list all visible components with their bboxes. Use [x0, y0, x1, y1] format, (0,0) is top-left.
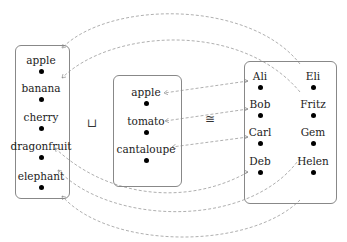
point-dot	[39, 185, 44, 190]
right-item-fritz: Fritz	[273, 98, 347, 118]
point-dot	[258, 170, 263, 175]
point-dot	[39, 97, 44, 102]
point-dot	[311, 113, 316, 118]
item-label: cherry	[1, 111, 81, 123]
point-dot	[144, 158, 149, 163]
item-label: tomato	[106, 115, 186, 127]
right-item-gem: Gem	[273, 126, 347, 146]
right-item-eli: Eli	[273, 70, 347, 90]
item-label: apple	[106, 86, 186, 98]
point-dot	[258, 141, 263, 146]
middle-item-cantaloupe: cantaloupe	[106, 143, 186, 163]
point-dot	[311, 141, 316, 146]
point-dot	[258, 113, 263, 118]
left-item-apple: apple	[1, 54, 81, 74]
point-dot	[39, 126, 44, 131]
middle-item-apple: apple	[106, 86, 186, 106]
point-dot	[311, 85, 316, 90]
point-dot	[39, 155, 44, 160]
item-label: Helen	[273, 155, 347, 167]
left-item-dragonfruit: dragonfruit	[1, 140, 81, 160]
point-dot	[258, 85, 263, 90]
item-label: Eli	[273, 70, 347, 82]
item-label: dragonfruit	[1, 140, 81, 152]
left-item-banana: banana	[1, 82, 81, 102]
left-item-elephant: elephant	[1, 170, 81, 190]
middle-item-tomato: tomato	[106, 115, 186, 135]
isomorphic-symbol: ≅	[205, 112, 215, 126]
left-item-cherry: cherry	[1, 111, 81, 131]
point-dot	[311, 170, 316, 175]
item-label: elephant	[1, 170, 81, 182]
item-label: apple	[1, 54, 81, 66]
disjoint-union-symbol: ⊔	[87, 116, 97, 130]
point-dot	[144, 130, 149, 135]
item-label: Gem	[273, 126, 347, 138]
point-dot	[39, 69, 44, 74]
item-label: Fritz	[273, 98, 347, 110]
point-dot	[144, 101, 149, 106]
item-label: cantaloupe	[106, 143, 186, 155]
right-item-helen: Helen	[273, 155, 347, 175]
arrow-eli-apple	[62, 14, 300, 64]
item-label: banana	[1, 82, 81, 94]
